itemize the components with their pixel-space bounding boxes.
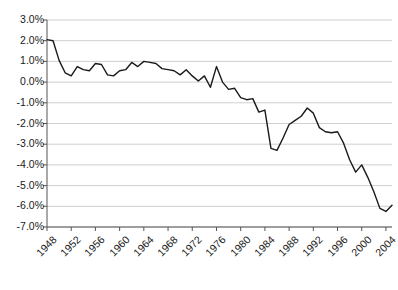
y-tick-label: 1.0% xyxy=(0,55,44,66)
y-tick-label: -4.0% xyxy=(0,159,44,170)
y-tick-label: 2.0% xyxy=(0,35,44,46)
gridlines xyxy=(47,20,392,227)
y-tick-label: 3.0% xyxy=(0,14,44,25)
line-chart: 3.0%2.0%1.0%0.0%-1.0%-2.0%-3.0%-4.0%-5.0… xyxy=(0,0,398,290)
y-tick-label: -5.0% xyxy=(0,180,44,191)
y-tick-label: 0.0% xyxy=(0,76,44,87)
x-tick-marks xyxy=(47,227,386,231)
y-tick-label: -2.0% xyxy=(0,118,44,129)
y-tick-label: -3.0% xyxy=(0,138,44,149)
y-tick-label: -7.0% xyxy=(0,221,44,232)
y-tick-label: -1.0% xyxy=(0,97,44,108)
y-tick-label: -6.0% xyxy=(0,200,44,211)
